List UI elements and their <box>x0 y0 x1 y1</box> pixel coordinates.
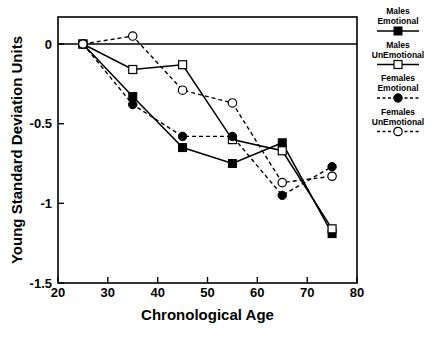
legend-marker <box>394 94 402 102</box>
x-tick-label-3: 50 <box>200 285 214 300</box>
data-point <box>178 132 186 140</box>
data-point <box>328 162 336 170</box>
data-point <box>228 160 236 168</box>
legend-label-line1: Females <box>381 107 415 117</box>
plot-frame <box>58 17 357 283</box>
x-tick-label-2: 40 <box>150 285 164 300</box>
legend-label-line2: Emotional <box>377 83 418 93</box>
data-point <box>179 144 187 152</box>
data-point <box>278 147 286 155</box>
chart-legend: MalesEmotionalMalesUnEmotionalFemalesEmo… <box>372 6 424 136</box>
legend-label-line1: Males <box>386 6 410 16</box>
data-point <box>129 93 137 101</box>
y-axis-title: Young Standard Deviation Units <box>8 36 25 264</box>
y-tick-label-2: -1 <box>40 196 52 211</box>
y-axis-tick-labels: 0 -0.5 -1 -1.5 <box>30 37 52 291</box>
data-point <box>228 132 236 140</box>
data-point <box>228 99 236 107</box>
legend-entry-females-emotional[interactable]: FemalesEmotional <box>377 73 419 102</box>
legend-marker <box>394 61 402 69</box>
legend-entry-females-unemotional[interactable]: FemalesUnEmotional <box>372 107 424 136</box>
data-point <box>278 191 286 199</box>
legend-label-line1: Males <box>386 40 410 50</box>
data-point <box>179 61 187 69</box>
x-axis-title: Chronological Age <box>141 306 274 323</box>
x-axis-tick-labels: 20 30 40 50 60 70 80 <box>51 285 364 300</box>
data-point <box>328 172 336 180</box>
x-tick-label-1: 30 <box>101 285 115 300</box>
x-tick-label-5: 70 <box>300 285 314 300</box>
legend-entry-males-unemotional[interactable]: MalesUnEmotional <box>372 40 424 69</box>
data-point <box>328 225 336 233</box>
data-point <box>178 86 186 94</box>
chart-figure: 0 -0.5 -1 -1.5 20 30 40 50 60 70 80 Chro… <box>0 0 436 337</box>
y-tick-label-1: -0.5 <box>30 116 52 131</box>
data-point <box>278 178 286 186</box>
x-tick-label-6: 80 <box>350 285 364 300</box>
data-point <box>129 32 137 40</box>
legend-marker <box>394 27 402 35</box>
y-tick-label-0: 0 <box>45 37 52 52</box>
x-tick-label-0: 20 <box>51 285 65 300</box>
line-chart-svg: 0 -0.5 -1 -1.5 20 30 40 50 60 70 80 Chro… <box>0 0 436 337</box>
x-tick-label-4: 60 <box>250 285 264 300</box>
legend-label-line2: Emotional <box>377 16 418 26</box>
legend-label-line2: UnEmotional <box>372 117 424 127</box>
legend-entry-males-emotional[interactable]: MalesEmotional <box>377 6 419 35</box>
data-point <box>278 139 286 147</box>
y-tick-label-3: -1.5 <box>30 276 52 291</box>
legend-label-line2: UnEmotional <box>372 50 424 60</box>
data-point <box>79 40 87 48</box>
legend-marker <box>394 127 402 135</box>
data-point <box>129 65 137 73</box>
data-point <box>129 100 137 108</box>
legend-label-line1: Females <box>381 73 415 83</box>
